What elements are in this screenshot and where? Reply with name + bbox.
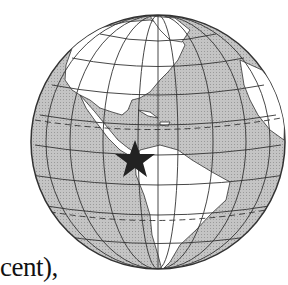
- caption-text: cent),: [0, 252, 58, 282]
- globe-map: [0, 0, 288, 285]
